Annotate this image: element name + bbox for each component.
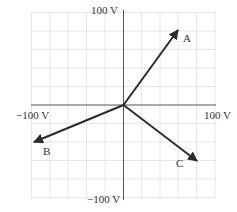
- x-max-label: 100 V: [204, 109, 231, 121]
- y-max-label: 100 V: [91, 4, 118, 16]
- vector-diagram: 100 V −100 V −100 V 100 V A B C: [0, 0, 237, 212]
- vector-c-label: C: [176, 157, 183, 169]
- vector-a-label: A: [183, 32, 191, 44]
- y-min-label: −100 V: [87, 193, 120, 205]
- vector-b-label: B: [43, 145, 50, 157]
- x-min-label: −100 V: [16, 109, 49, 121]
